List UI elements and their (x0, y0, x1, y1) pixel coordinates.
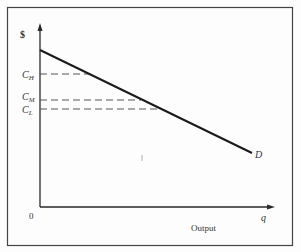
y-axis-arrow-icon (38, 23, 43, 31)
x-axis-label: Output (191, 223, 217, 233)
label-c-m: CM (22, 91, 36, 104)
label-c-h: CH (22, 69, 35, 82)
curve-label-d: D (254, 149, 263, 160)
chart-figure: $ CH CM CL D 0 q Output (0, 0, 301, 252)
label-c-l: CL (22, 104, 33, 117)
chart-svg: $ CH CM CL D 0 q Output (0, 0, 301, 252)
x-axis-arrow-icon (267, 205, 275, 210)
x-axis-end-label: q (261, 212, 266, 223)
origin-label: 0 (29, 211, 34, 221)
y-axis-label: $ (20, 29, 25, 40)
demand-curve-d (40, 50, 252, 153)
chart-frame (8, 8, 293, 246)
